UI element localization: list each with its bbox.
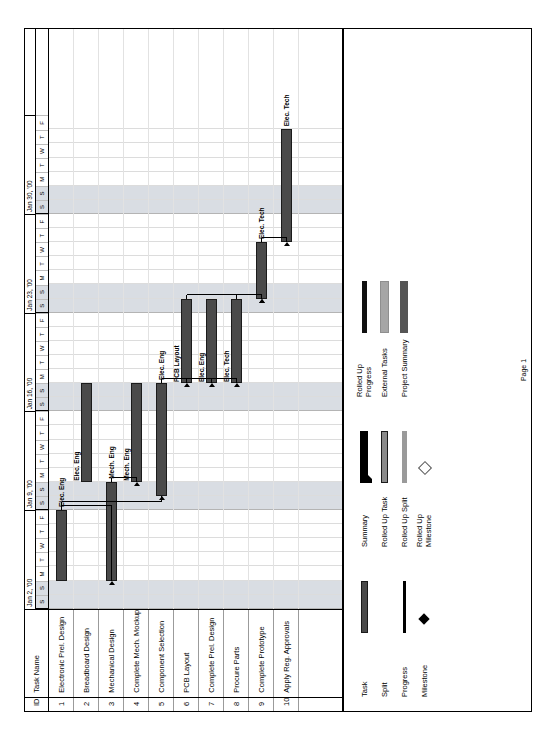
legend-item: Progress xyxy=(394,547,414,697)
legend-item: Project Summary xyxy=(394,247,414,397)
rolled-up-task-bar-icon xyxy=(376,425,392,485)
gantt-row xyxy=(149,29,174,609)
table-row[interactable]: 9 xyxy=(249,698,274,711)
day-header-cell: S xyxy=(36,595,48,609)
gantt-bar-resource-label: Elec. Eng xyxy=(58,478,66,507)
id-column: ID 1 2 3 4 5 6 7 8 9 10 xyxy=(25,697,342,711)
day-header-cell: W xyxy=(36,440,48,454)
page-footer: Page 1 xyxy=(520,29,527,711)
dependency-link xyxy=(186,295,187,299)
task-name-column: Task Name Electronic Prel. Design Breadb… xyxy=(25,609,342,697)
table-row[interactable]: Breadboard Design xyxy=(74,610,99,697)
day-header-cell: W xyxy=(36,242,48,256)
dependency-link xyxy=(161,379,162,383)
split-bar-icon xyxy=(376,575,392,635)
task-bar-icon xyxy=(356,575,372,635)
legend-label: Project Summary xyxy=(400,335,409,397)
gantt-bar[interactable] xyxy=(231,299,242,384)
day-header-cell: T xyxy=(36,256,48,270)
day-header-cell: S xyxy=(36,581,48,595)
day-header-cell: T xyxy=(36,158,48,172)
dependency-link xyxy=(262,237,287,238)
gantt-sheet: ID 1 2 3 4 5 6 7 8 9 10 Task Name xyxy=(18,20,538,720)
rolled-up-progress-bar-icon xyxy=(356,275,372,335)
gantt-row xyxy=(124,29,149,609)
week-label: Jan 2, '00 xyxy=(25,510,35,609)
day-header-cell: F xyxy=(36,510,48,524)
dependency-arrow-icon xyxy=(159,496,165,500)
day-header-cell: W xyxy=(36,341,48,355)
day-header-row: SSMTWTFSSMTWTFSSMTWTFSSMTWTFSSMTWTF xyxy=(36,29,48,609)
progress-bar-icon xyxy=(396,575,412,635)
day-header-cell: T xyxy=(36,454,48,468)
column-header-id: ID xyxy=(25,698,49,711)
dependency-link xyxy=(61,502,62,510)
table-row[interactable]: 5 xyxy=(149,698,174,711)
column-header-task-name: Task Name xyxy=(25,610,49,697)
gantt-bar[interactable] xyxy=(206,299,217,384)
table-row[interactable]: Component Selection xyxy=(149,610,174,697)
legend-column-2: Summary Rolled Up Task Rolled Up Split xyxy=(354,397,434,547)
table-row[interactable]: 6 xyxy=(174,698,199,711)
legend-item: Milestone xyxy=(414,547,434,697)
legend-label: Milestone xyxy=(420,635,429,697)
legend-item: Task xyxy=(354,547,374,697)
table-row[interactable]: 2 xyxy=(74,698,99,711)
day-header-cell: S xyxy=(36,496,48,510)
gantt-row xyxy=(74,29,99,609)
table-row[interactable]: 10 xyxy=(274,698,299,711)
dependency-arrow-icon xyxy=(209,383,215,387)
table-row[interactable]: 3 xyxy=(99,698,124,711)
gantt-bar[interactable] xyxy=(156,383,167,496)
gantt-bar-resource-label: Elec. Tech xyxy=(258,207,266,239)
table-row[interactable]: 8 xyxy=(224,698,249,711)
day-header-cell: S xyxy=(36,299,48,313)
project-summary-bar-icon xyxy=(396,275,412,335)
dependency-link xyxy=(261,238,262,242)
table-row[interactable]: Electronic Prel. Design xyxy=(49,610,74,697)
dependency-link xyxy=(162,378,237,379)
day-header-cell: T xyxy=(36,355,48,369)
day-header-cell: S xyxy=(36,383,48,397)
gantt-bar[interactable] xyxy=(56,510,67,581)
table-row[interactable]: Complete Prototype xyxy=(249,610,274,697)
day-header-cell: M xyxy=(36,369,48,383)
day-header-cell: S xyxy=(36,186,48,200)
week-label: Jan 9, '00 xyxy=(25,411,35,510)
day-header-cell: S xyxy=(36,200,48,214)
legend-column-1: Task Split Progress Milestone xyxy=(354,547,434,697)
day-header-cell: F xyxy=(36,115,48,129)
table-row[interactable]: 1 xyxy=(49,698,74,711)
dependency-link xyxy=(111,506,112,581)
day-header-cell: F xyxy=(36,214,48,228)
table-row[interactable]: Mechanical Design xyxy=(99,610,124,697)
table-row[interactable]: Apply Reg. Approvals xyxy=(274,610,299,697)
day-header-cell: T xyxy=(36,228,48,242)
table-row[interactable]: 7 xyxy=(199,698,224,711)
dependency-arrow-icon xyxy=(109,581,115,585)
legend-label: Split xyxy=(380,635,389,697)
legend-item: Rolled Up Task xyxy=(374,397,394,547)
dependency-link xyxy=(112,477,137,478)
table-row[interactable]: Procure Parts xyxy=(224,610,249,697)
table-row[interactable]: 4 xyxy=(124,698,149,711)
week-label: Jan 16, '00 xyxy=(25,313,35,412)
gantt-bar[interactable] xyxy=(131,383,142,482)
dependency-arrow-icon xyxy=(234,383,240,387)
legend-item: External Tasks xyxy=(374,247,394,397)
gantt-bar[interactable] xyxy=(81,383,92,482)
legend-item: Summary xyxy=(354,397,374,547)
external-task-bar-icon xyxy=(376,275,392,335)
gantt-bar[interactable] xyxy=(281,129,292,242)
day-header-cell: M xyxy=(36,566,48,580)
table-row[interactable]: PCB Layout xyxy=(174,610,199,697)
table-row[interactable]: Complete Prel. Design xyxy=(199,610,224,697)
table-row[interactable]: Complete Mech. Mockup xyxy=(124,610,149,697)
timeline: Jan 2, '00Jan 9, '00Jan 16, '00Jan 23, '… xyxy=(25,29,342,609)
legend-column-3: Rolled Up Progress External Tasks Projec… xyxy=(354,247,434,397)
gantt-bar[interactable] xyxy=(181,299,192,384)
gantt-bar[interactable] xyxy=(256,242,267,298)
legend-item: Rolled Up Progress xyxy=(354,247,374,397)
dependency-link xyxy=(111,478,112,482)
day-header-cell: S xyxy=(36,397,48,411)
